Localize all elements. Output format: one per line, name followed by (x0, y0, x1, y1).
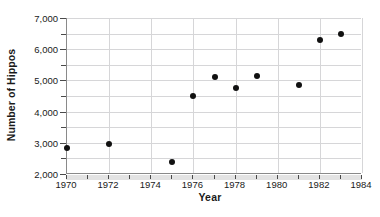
gridline-horizontal (67, 80, 361, 81)
gridline-horizontal (67, 158, 361, 159)
x-axis-tick-label: 1976 (182, 179, 203, 190)
x-axis-tick-label: 1972 (98, 179, 119, 190)
gridline-horizontal (67, 49, 361, 50)
data-point (106, 141, 112, 147)
gridline-vertical (109, 18, 110, 173)
y-axis-tick-label: 5,000 (16, 75, 58, 86)
x-axis-title: Year (55, 191, 365, 203)
data-point (254, 73, 260, 79)
data-point (64, 145, 70, 151)
gridline-vertical (151, 18, 152, 173)
gridline-horizontal (67, 18, 361, 19)
y-axis-tick-label: 3,000 (16, 137, 58, 148)
y-axis-tick-labels: 2,0003,0004,0005,0006,0007,000 (14, 0, 58, 190)
caption-clipped-strip (0, 209, 380, 217)
gridline-vertical (236, 18, 237, 173)
gridline-horizontal (67, 96, 361, 97)
x-axis-tick-label: 1984 (350, 179, 371, 190)
x-axis-tick-label: 1982 (308, 179, 329, 190)
data-point (212, 74, 218, 80)
data-point (169, 159, 175, 165)
x-axis-tick-label: 1974 (140, 179, 161, 190)
scatter-plot-figure: Number of Hippos 2,0003,0004,0005,0006,0… (0, 0, 380, 217)
y-axis-tick-label: 7,000 (16, 13, 58, 24)
x-axis-tick-label: 1970 (55, 179, 76, 190)
y-axis-tick-label: 4,000 (16, 106, 58, 117)
gridline-horizontal (67, 112, 361, 113)
gridline-horizontal (67, 34, 361, 35)
plot-area (66, 18, 361, 174)
data-point (317, 37, 323, 43)
y-axis-tick-label: 2,000 (16, 169, 58, 180)
data-point (338, 31, 344, 37)
gridline-vertical (278, 18, 279, 173)
gridline-horizontal (67, 65, 361, 66)
data-point (296, 82, 302, 88)
gridline-vertical (362, 18, 363, 173)
x-axis-tick-label: 1980 (266, 179, 287, 190)
data-point (233, 85, 239, 91)
y-axis-tick-label: 6,000 (16, 44, 58, 55)
gridline-horizontal (67, 127, 361, 128)
x-axis-tick-label: 1978 (224, 179, 245, 190)
data-point (190, 93, 196, 99)
